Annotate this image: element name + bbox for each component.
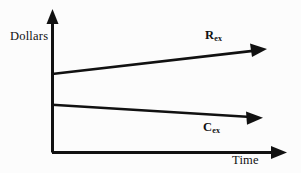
series-label-cex-subscript: ex xyxy=(212,126,220,135)
rex-arrowhead-icon xyxy=(250,44,267,57)
y-axis-arrowhead-icon xyxy=(47,9,59,24)
chart-canvas xyxy=(0,0,301,173)
cex-arrowhead-icon xyxy=(246,112,263,125)
series-label-rex: Rex xyxy=(205,28,222,43)
y-axis xyxy=(47,9,59,153)
series-line-rex xyxy=(52,44,267,74)
series-line-cex xyxy=(52,105,263,125)
chart-figure: Dollars Time Rex Cex xyxy=(0,0,301,173)
x-axis-arrowhead-icon xyxy=(271,146,287,159)
x-axis-label: Time xyxy=(232,153,259,168)
series-label-rex-subscript: ex xyxy=(214,34,222,43)
y-axis-label: Dollars xyxy=(10,29,48,44)
series-label-cex: Cex xyxy=(203,120,220,135)
series-label-cex-base: C xyxy=(203,120,212,134)
cex-line-shaft xyxy=(52,105,251,117)
rex-line-shaft xyxy=(52,51,255,74)
series-label-rex-base: R xyxy=(205,28,214,42)
